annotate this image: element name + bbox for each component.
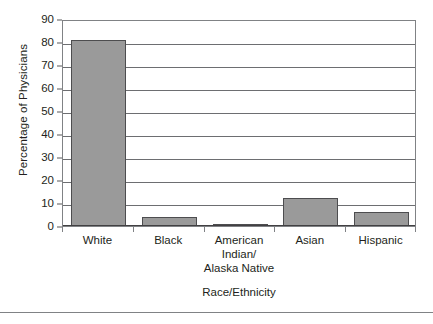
y-axis-tick-mark — [57, 20, 62, 21]
x-axis-tick-mark — [274, 227, 275, 232]
plot-area — [62, 20, 416, 227]
x-axis-tick-label-line: Asian — [274, 233, 345, 247]
x-axis-tick-label: White — [62, 233, 133, 247]
y-axis-tick-label: 70 — [28, 60, 54, 72]
y-axis-tick-mark — [57, 89, 62, 90]
x-axis-tick-label: Asian — [274, 233, 345, 247]
y-axis-tick-label: 40 — [28, 129, 54, 141]
x-axis-baseline — [63, 225, 415, 226]
y-axis-tick-label: 0 — [28, 221, 54, 233]
y-axis-tick-mark — [57, 204, 62, 205]
y-axis-tick-mark — [57, 112, 62, 113]
y-axis-tick-mark — [57, 43, 62, 44]
x-axis-title: Race/Ethnicity — [62, 286, 416, 298]
x-axis-tick-label-line: Black — [133, 233, 204, 247]
y-axis-tick-mark — [57, 135, 62, 136]
y-axis-tick-label: 90 — [28, 14, 54, 26]
x-axis-tick-label-line: Alaska Native — [204, 261, 275, 275]
x-axis-tick-mark — [204, 227, 205, 232]
x-axis-tick-label: Hispanic — [345, 233, 416, 247]
x-axis-tick-mark — [345, 227, 346, 232]
x-axis-tick-label: AmericanIndian/Alaska Native — [204, 233, 275, 275]
bar — [283, 198, 338, 226]
y-axis-tick-label: 30 — [28, 152, 54, 164]
x-axis-tick-mark — [62, 227, 63, 232]
y-axis-tick-label: 20 — [28, 175, 54, 187]
x-axis-tick-label: Black — [133, 233, 204, 247]
y-axis-tick-labels: 0102030405060708090 — [28, 12, 54, 236]
bar-chart-figure: Percentage of Physicians 010203040506070… — [0, 0, 433, 324]
y-axis-tick-label: 50 — [28, 106, 54, 118]
x-axis-tick-mark — [415, 227, 416, 232]
x-axis-tick-label-line: Indian/ — [204, 247, 275, 261]
bars-layer — [63, 21, 415, 226]
x-axis-tick-labels: WhiteBlackAmericanIndian/Alaska NativeAs… — [62, 233, 416, 285]
y-axis-tick-mark — [57, 158, 62, 159]
x-axis-tick-label-line: White — [62, 233, 133, 247]
x-axis-tick-label-line: Hispanic — [345, 233, 416, 247]
bottom-divider — [0, 312, 433, 313]
y-axis-tick-mark — [57, 181, 62, 182]
x-axis-tick-mark — [133, 227, 134, 232]
bar — [354, 212, 409, 226]
x-axis-tick-label-line: American — [204, 233, 275, 247]
y-axis-tick-label: 80 — [28, 37, 54, 49]
y-axis-tick-label: 10 — [28, 198, 54, 210]
y-axis-tick-mark — [57, 66, 62, 67]
bar — [71, 40, 126, 226]
y-axis-tick-label: 60 — [28, 83, 54, 95]
